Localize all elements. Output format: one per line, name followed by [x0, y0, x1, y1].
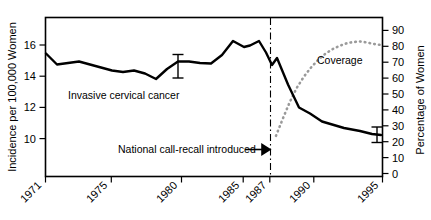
- left-tick-10: 10: [24, 133, 36, 145]
- left-axis-ticks: [40, 45, 46, 139]
- left-tick-16: 16: [24, 39, 36, 51]
- right-axis-tick-labels: 90 80 70 60 50 40 30 20 10 0: [392, 24, 404, 179]
- x-tick-1987: 1987: [243, 179, 269, 205]
- right-tick-30: 30: [392, 120, 404, 132]
- x-tick-1971: 1971: [18, 179, 44, 205]
- right-tick-80: 80: [392, 40, 404, 52]
- x-tick-1985: 1985: [216, 179, 242, 205]
- right-tick-20: 20: [392, 136, 404, 148]
- right-tick-50: 50: [392, 88, 404, 100]
- x-tick-1980: 1980: [154, 179, 180, 205]
- right-tick-90: 90: [392, 24, 404, 36]
- x-axis-tick-labels: 1971 1975 1980 1985 1987 1990 1995: [18, 179, 381, 205]
- right-axis-title: Percentage of Women: [414, 45, 426, 154]
- left-tick-14: 14: [24, 70, 36, 82]
- right-tick-40: 40: [392, 104, 404, 116]
- right-tick-60: 60: [392, 72, 404, 84]
- x-tick-1975: 1975: [84, 179, 110, 205]
- right-tick-70: 70: [392, 56, 404, 68]
- cervical-cancer-incidence-chart: 16 14 12 10 Incidence per 100,000 Women …: [0, 0, 431, 220]
- right-axis-ticks: [383, 30, 389, 173]
- right-tick-10: 10: [392, 152, 404, 164]
- left-axis-title: Incidence per 100,000 Women: [6, 22, 18, 172]
- error-bar-1980: [173, 55, 184, 79]
- coverage-label: Coverage: [317, 54, 363, 66]
- national-call-recall-label: National call-recall introduced: [118, 143, 256, 155]
- x-tick-1990: 1990: [287, 179, 313, 205]
- left-axis-tick-labels: 16 14 12 10: [24, 39, 36, 145]
- x-tick-1995: 1995: [355, 179, 381, 205]
- chart-canvas: 16 14 12 10 Incidence per 100,000 Women …: [0, 0, 431, 220]
- right-tick-0: 0: [392, 168, 398, 180]
- invasive-cervical-cancer-label: Invasive cervical cancer: [68, 89, 180, 101]
- x-axis-ticks: [46, 177, 383, 183]
- left-tick-12: 12: [24, 101, 36, 113]
